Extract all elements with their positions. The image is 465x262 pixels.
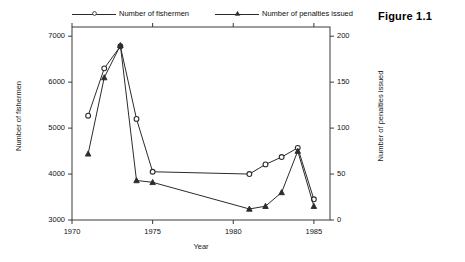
data-point-triangle [311, 203, 317, 208]
data-point-circle [150, 169, 155, 174]
series-line [88, 46, 314, 199]
data-point-circle [247, 172, 252, 177]
series-line [88, 45, 314, 209]
plot-canvas [0, 0, 465, 262]
data-point-triangle [85, 151, 91, 156]
y-axis-right-tick-label: 0 [337, 215, 367, 224]
y-axis-right-tick-label: 50 [337, 169, 367, 178]
y-axis-right-tick-label: 150 [337, 77, 367, 86]
x-axis-tick-label: 1985 [298, 227, 330, 236]
y-axis-left-tick-label: 4000 [32, 169, 65, 178]
x-axis-tick-label: 1980 [217, 227, 249, 236]
data-point-triangle [134, 178, 140, 183]
plot-frame [72, 27, 330, 220]
y-axis-right-tick-label: 200 [337, 31, 367, 40]
figure-container: Figure 1.1 Number of fishermen Number of… [0, 0, 465, 262]
data-point-circle [279, 155, 284, 160]
y-axis-left-tick-label: 5000 [32, 123, 65, 132]
series-fishermen [86, 44, 317, 202]
data-point-circle [86, 113, 91, 118]
data-point-circle [134, 117, 139, 122]
x-axis-tick-label: 1970 [56, 227, 88, 236]
y-axis-right-tick-label: 100 [337, 123, 367, 132]
x-axis-tick-label: 1975 [137, 227, 169, 236]
data-point-triangle [279, 190, 285, 195]
data-point-circle [102, 66, 107, 71]
y-axis-left-tick-label: 6000 [32, 77, 65, 86]
y-axis-left-tick-label: 3000 [32, 215, 65, 224]
data-point-circle [263, 162, 268, 167]
series-penalties [85, 42, 316, 211]
y-axis-left-tick-label: 7000 [32, 31, 65, 40]
